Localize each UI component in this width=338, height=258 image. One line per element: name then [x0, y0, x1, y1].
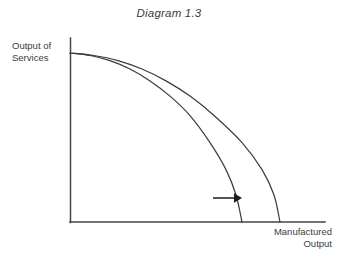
ppf-curve-shifted [70, 53, 280, 222]
diagram-page: Diagram 1.3 Output of Services Manufactu… [0, 0, 338, 258]
ppf-curve-original [70, 53, 242, 222]
ppf-plot [0, 0, 338, 258]
